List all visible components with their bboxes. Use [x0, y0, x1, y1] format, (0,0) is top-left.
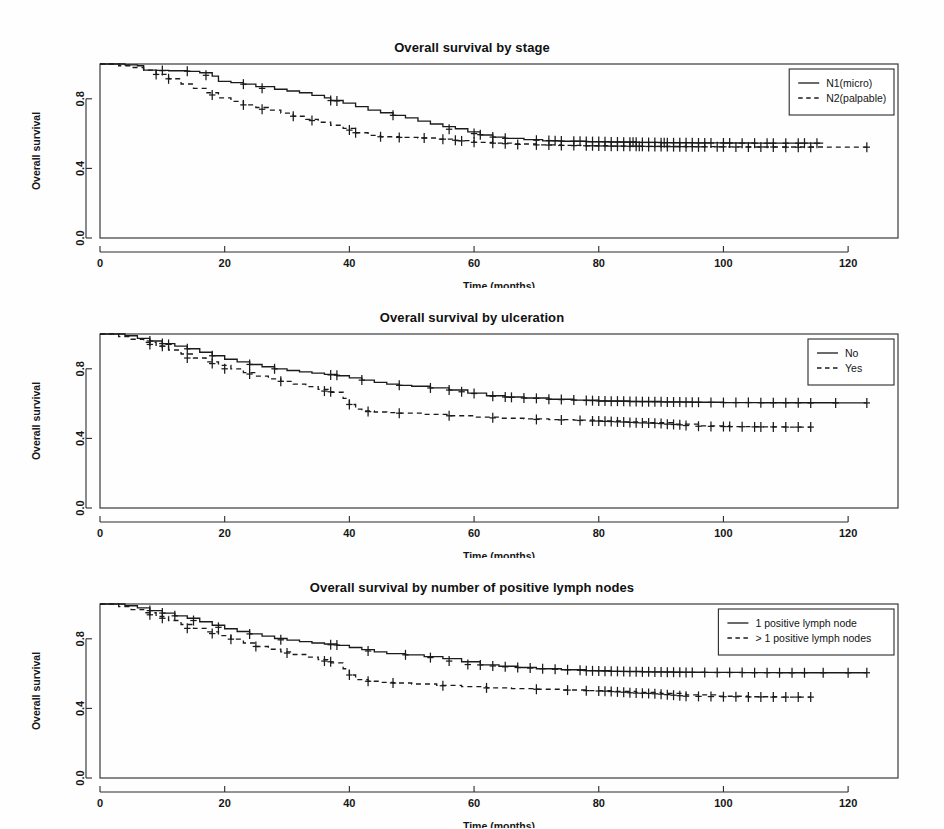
x-tick-label: 100: [714, 527, 732, 539]
km-curve: [100, 604, 811, 697]
x-tick-label: 0: [97, 797, 103, 809]
km-plot-stage: 0.00.40.8Overall survival020406080100120…: [0, 58, 944, 288]
y-axis-title: Overall survival: [30, 112, 42, 190]
x-tick-label: 100: [714, 257, 732, 269]
x-tick-label: 80: [593, 257, 605, 269]
km-plot-ulceration: 0.00.40.8Overall survival020406080100120…: [0, 328, 944, 558]
chart-panel-ulceration: Overall survival by ulceration 0.00.40.8…: [0, 290, 944, 560]
x-axis-title: Time (months): [463, 280, 535, 288]
x-tick-label: 120: [839, 797, 857, 809]
x-axis-title: Time (months): [463, 820, 535, 828]
km-curve: [100, 334, 867, 403]
x-tick-label: 80: [593, 797, 605, 809]
y-axis-title: Overall survival: [30, 382, 42, 460]
x-tick-label: 100: [714, 797, 732, 809]
censor-marks: [147, 339, 814, 432]
x-tick-label: 20: [219, 797, 231, 809]
x-tick-label: 40: [343, 797, 355, 809]
legend-label: 1 positive lymph node: [755, 617, 857, 629]
chart-legend: NoYes: [808, 339, 894, 385]
y-tick-label: 0.8: [74, 361, 86, 376]
plot-frame: [100, 334, 898, 508]
chart-legend: 1 positive lymph node> 1 positive lymph …: [718, 609, 894, 655]
chart-legend: N1(micro)N2(palpable): [789, 69, 894, 115]
y-tick-label: 0.8: [74, 91, 86, 106]
km-curve: [100, 334, 811, 427]
legend-label: Yes: [845, 362, 862, 374]
y-tick-label: 0.0: [74, 230, 86, 245]
censor-marks: [147, 610, 814, 702]
x-axis-title: Time (months): [463, 550, 535, 558]
y-tick-label: 0.4: [74, 430, 86, 446]
x-tick-label: 120: [839, 527, 857, 539]
x-tick-label: 80: [593, 527, 605, 539]
x-tick-label: 60: [468, 257, 480, 269]
chart-panel-stage: Overall survival by stage 0.00.40.8Overa…: [0, 20, 944, 290]
chart-title-lymph-nodes: Overall survival by number of positive l…: [0, 580, 944, 595]
chart-panel-lymph-nodes: Overall survival by number of positive l…: [0, 560, 944, 829]
x-tick-label: 20: [219, 527, 231, 539]
km-plot-lymph-nodes: 0.00.40.8Overall survival020406080100120…: [0, 598, 944, 828]
x-tick-label: 60: [468, 527, 480, 539]
chart-title-ulceration: Overall survival by ulceration: [0, 310, 944, 325]
x-tick-label: 60: [468, 797, 480, 809]
censor-marks: [147, 336, 870, 408]
legend-label: No: [845, 347, 859, 359]
x-tick-label: 120: [839, 257, 857, 269]
y-tick-label: 0.4: [74, 160, 86, 176]
y-tick-label: 0.0: [74, 770, 86, 785]
censor-marks: [153, 69, 870, 152]
x-tick-label: 0: [97, 527, 103, 539]
x-tick-label: 40: [343, 527, 355, 539]
legend-label: N1(micro): [826, 77, 872, 89]
y-tick-label: 0.8: [74, 631, 86, 646]
x-tick-label: 40: [343, 257, 355, 269]
y-tick-label: 0.0: [74, 500, 86, 515]
x-tick-label: 0: [97, 257, 103, 269]
figure-page: Overall survival by stage 0.00.40.8Overa…: [0, 0, 944, 829]
legend-label: N2(palpable): [826, 92, 886, 104]
y-axis-title: Overall survival: [30, 652, 42, 730]
legend-label: > 1 positive lymph nodes: [755, 632, 871, 644]
plot-frame: [100, 64, 898, 238]
chart-title-stage: Overall survival by stage: [0, 40, 944, 55]
y-tick-label: 0.4: [74, 700, 86, 716]
x-tick-label: 20: [219, 257, 231, 269]
